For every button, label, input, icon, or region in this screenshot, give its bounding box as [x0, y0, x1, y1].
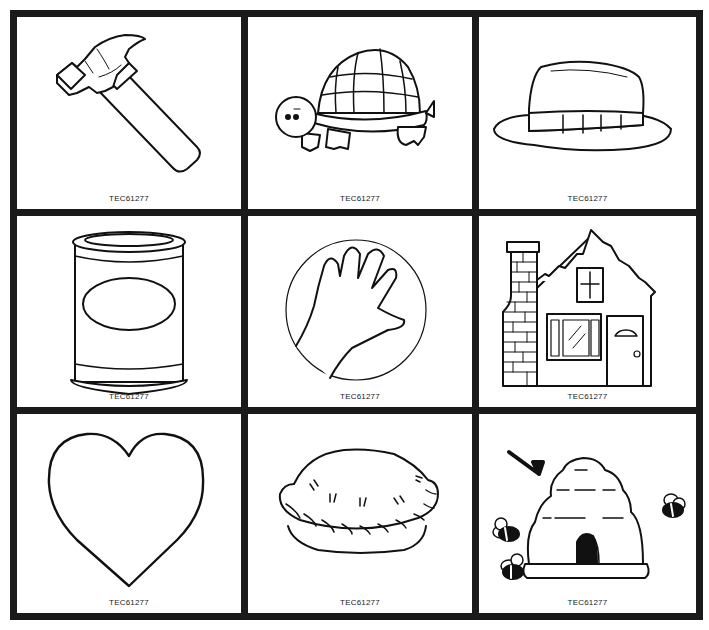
can-icon	[17, 216, 241, 407]
card-hand: TEC61277	[248, 216, 472, 407]
heart-icon	[17, 414, 241, 613]
turtle-icon	[248, 17, 472, 209]
beehive-icon	[479, 414, 696, 613]
card-code: TEC61277	[479, 598, 696, 607]
card-house: TEC61277	[479, 216, 696, 407]
bee-icon	[663, 494, 685, 517]
hand-icon	[248, 216, 472, 407]
card-hammer: TEC61277	[17, 17, 241, 209]
card-beehive: TEC61277	[479, 414, 696, 613]
hat-icon	[479, 17, 696, 209]
card-code: TEC61277	[17, 598, 241, 607]
card-code: TEC61277	[248, 194, 472, 203]
card-code: TEC61277	[17, 194, 241, 203]
bee-icon	[501, 554, 523, 579]
card-turtle: TEC61277	[248, 17, 472, 209]
card-code: TEC61277	[479, 194, 696, 203]
bee-icon	[493, 518, 519, 541]
hammer-icon	[17, 17, 241, 209]
card-code: TEC61277	[479, 392, 696, 401]
card-heart: TEC61277	[17, 414, 241, 613]
card-hat: TEC61277	[479, 17, 696, 209]
card-code: TEC61277	[248, 598, 472, 607]
house-icon	[479, 216, 696, 407]
card-can: TEC61277	[17, 216, 241, 407]
picture-card-grid: TEC61277 TEC61277 TEC61277	[10, 10, 703, 620]
card-code: TEC61277	[248, 392, 472, 401]
card-code: TEC61277	[17, 392, 241, 401]
pie-icon	[248, 414, 472, 613]
card-pie: TEC61277	[248, 414, 472, 613]
